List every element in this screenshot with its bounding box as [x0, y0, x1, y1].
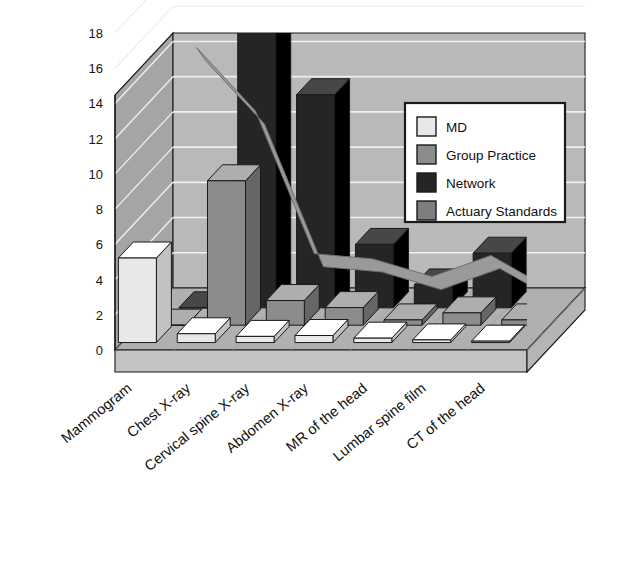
legend-swatch-1 — [417, 145, 436, 164]
legend-label-3: Actuary Standards — [446, 204, 557, 219]
y-axis-tick-label: 12 — [89, 132, 103, 147]
y-axis-tick-label: 18 — [89, 26, 103, 41]
y-axis-tick-label: 4 — [96, 273, 103, 288]
bar-md-0 — [118, 242, 171, 343]
y-axis-tick-label: 2 — [96, 308, 103, 323]
x-axis-label-2: Cervical spine X-ray — [141, 379, 252, 474]
legend-label-1: Group Practice — [446, 148, 536, 163]
y-axis-tick-label: 8 — [96, 202, 103, 217]
y-axis-tick-label: 16 — [89, 61, 103, 76]
legend-swatch-3 — [417, 201, 436, 220]
legend-label-2: Network — [446, 176, 496, 191]
legend-swatch-0 — [417, 117, 436, 136]
x-axis-label-0: Mammogram — [58, 380, 134, 446]
y-axis-tick-label: 10 — [89, 167, 103, 182]
y-axis-tick-label: 6 — [96, 237, 103, 252]
chart-legend: MDGroup PracticeNetworkActuary Standards — [405, 103, 565, 222]
y-axis-tick-label: 0 — [96, 343, 103, 358]
chart-container: 024681012141618 MammogramChest X-rayCerv… — [0, 0, 641, 570]
legend-label-0: MD — [446, 120, 467, 135]
legend-swatch-2 — [417, 173, 436, 192]
y-axis-tick-label: 14 — [89, 96, 103, 111]
bar-group-practice-1 — [207, 165, 260, 325]
bar-network-2 — [297, 79, 350, 308]
x-axis-category-labels: MammogramChest X-rayCervical spine X-ray… — [58, 379, 488, 474]
y-axis: 024681012141618 — [89, 26, 115, 358]
bar-chart-3d: 024681012141618 MammogramChest X-rayCerv… — [0, 0, 641, 570]
